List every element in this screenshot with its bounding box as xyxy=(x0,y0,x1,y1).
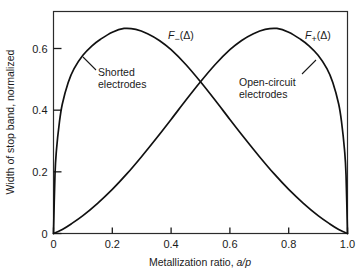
y-tick-label-0: 0 xyxy=(41,228,47,240)
x-axis-title: Metallization ratio, a/p xyxy=(149,256,251,268)
x-tick-label-5: 1.0 xyxy=(340,238,355,250)
annotation-shorted-electrodes-line1: Shorted xyxy=(98,66,135,78)
x-axis-title-italic: a/p xyxy=(236,256,251,268)
chart-figure: 00.20.40.60.81.0 00.20.40.6 F−(Δ) F+(Δ) … xyxy=(0,0,364,278)
series-label-f-plus-arg: (Δ) xyxy=(317,29,331,41)
x-tick-label-3: 0.6 xyxy=(222,238,237,250)
annotation-shorted-electrodes-line2: electrodes xyxy=(98,78,146,90)
x-tick-label-2: 0.4 xyxy=(163,238,178,250)
x-axis-title-text: Metallization ratio, xyxy=(149,256,237,268)
y-tick-label-2: 0.4 xyxy=(32,104,47,116)
annotation-open-circuit-electrodes-line2: electrodes xyxy=(239,88,287,100)
annotation-open-circuit-electrodes-line1: Open-circuit xyxy=(239,76,296,88)
y-axis-title: Width of stop band, normalized xyxy=(4,49,16,194)
x-tick-label-1: 0.2 xyxy=(105,238,120,250)
y-tick-label-1: 0.2 xyxy=(32,166,47,178)
x-tick-label-0: 0 xyxy=(50,238,56,250)
x-tick-label-4: 0.8 xyxy=(281,238,296,250)
chart-background xyxy=(0,0,364,278)
y-tick-label-3: 0.6 xyxy=(32,43,47,55)
stop-band-chart: 00.20.40.60.81.0 00.20.40.6 F−(Δ) F+(Δ) … xyxy=(0,0,364,278)
series-label-f-minus-arg: (Δ) xyxy=(180,29,194,41)
